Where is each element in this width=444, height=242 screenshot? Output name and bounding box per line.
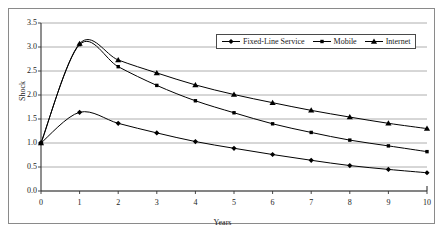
x-tick-label: 6 — [261, 199, 285, 207]
legend-entry: Internet — [364, 37, 411, 46]
series-line — [41, 40, 427, 143]
y-tick-label: 3.0 — [13, 43, 37, 51]
legend-entry-label: Mobile — [334, 37, 357, 46]
data-point-marker — [155, 84, 158, 87]
data-point-marker — [77, 110, 82, 115]
x-tick-label: 3 — [145, 199, 169, 207]
x-tick-label: 5 — [222, 199, 246, 207]
legend-entry: Fixed-Line Service — [221, 37, 305, 46]
data-point-marker — [194, 99, 197, 102]
x-tick-label: 8 — [338, 199, 362, 207]
chart-frame: 0.00.51.01.52.02.53.03.5 012345678910 Sh… — [8, 8, 435, 224]
data-point-marker — [116, 121, 121, 126]
y-axis-title: Shock — [18, 81, 27, 101]
data-point-marker — [348, 138, 351, 141]
data-point-marker — [232, 111, 235, 114]
legend-marker-triangle-icon — [364, 37, 384, 46]
legend-marker-square-icon — [312, 37, 332, 46]
x-tick-label: 10 — [415, 199, 439, 207]
x-tick-label: 2 — [106, 199, 130, 207]
y-tick-label: 0.0 — [13, 187, 37, 195]
figure-canvas: 0.00.51.01.52.02.53.03.5 012345678910 Sh… — [0, 0, 444, 242]
series-mobile — [39, 41, 428, 153]
y-tick-label: 2.5 — [13, 67, 37, 75]
data-point-marker — [425, 150, 428, 153]
y-tick-label: 1.0 — [13, 139, 37, 147]
data-point-marker — [387, 144, 390, 147]
data-point-marker — [310, 131, 313, 134]
series-fixed-line-service — [38, 110, 429, 176]
y-tick-label: 3.5 — [13, 19, 37, 27]
data-point-marker — [115, 57, 121, 62]
x-tick-label: 7 — [299, 199, 323, 207]
data-point-marker — [271, 122, 274, 125]
x-tick-label: 9 — [376, 199, 400, 207]
data-point-marker — [154, 130, 159, 135]
data-point-marker — [270, 152, 275, 157]
series-line — [41, 112, 427, 173]
legend-marker-diamond-icon — [221, 37, 241, 46]
legend-entry: Mobile — [312, 37, 357, 46]
x-tick-label: 0 — [29, 199, 53, 207]
y-tick-label: 1.5 — [13, 115, 37, 123]
chart-legend: Fixed-Line ServiceMobileInternet — [216, 34, 416, 49]
legend-entry-label: Fixed-Line Service — [243, 37, 305, 46]
data-point-marker — [231, 146, 236, 151]
series-internet — [38, 40, 430, 146]
data-point-marker — [424, 170, 429, 175]
x-tick-label: 1 — [68, 199, 92, 207]
x-tick-label: 4 — [183, 199, 207, 207]
data-point-marker — [309, 158, 314, 163]
legend-entry-label: Internet — [386, 37, 411, 46]
x-axis-title: Years — [9, 218, 436, 227]
data-point-marker — [386, 167, 391, 172]
y-tick-label: 0.5 — [13, 163, 37, 171]
data-point-marker — [117, 65, 120, 68]
